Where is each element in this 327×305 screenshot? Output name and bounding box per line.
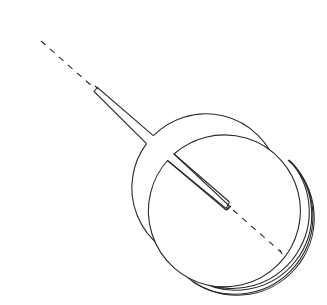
disk-bottom-right-outline <box>148 135 300 287</box>
disk-top-left-slot <box>94 88 153 144</box>
diagram-svg <box>0 0 327 305</box>
diagram-canvas <box>0 0 327 305</box>
disk-bottom-right <box>148 135 314 295</box>
disk-top-left-dashed-axis <box>41 41 93 87</box>
